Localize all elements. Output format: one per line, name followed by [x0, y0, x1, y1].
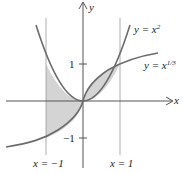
- label-x-neg1: x = −1: [32, 157, 64, 169]
- label-x-squared: y = x2: [133, 23, 161, 35]
- y-axis-label: y: [88, 1, 94, 13]
- curve-cube-root: [6, 53, 158, 147]
- tick-label-neg1: −1: [63, 132, 75, 144]
- label-x-1: x = 1: [109, 157, 133, 169]
- graph: y x 1 −1 y = x2 y = x1/3 x = −1 x = 1: [0, 0, 184, 173]
- label-cube-root: y = x1/3: [143, 59, 176, 71]
- x-axis-label: x: [173, 94, 179, 106]
- tick-label-1: 1: [69, 58, 75, 70]
- shaded-region-right: [83, 64, 120, 101]
